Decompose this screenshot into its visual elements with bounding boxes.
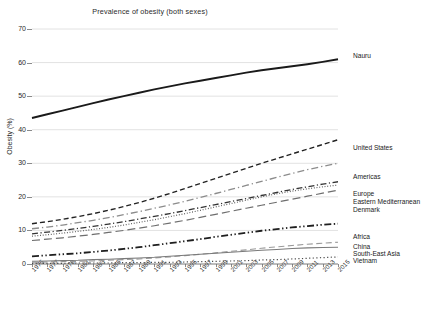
x-axis-tick-mark <box>307 264 308 267</box>
series-label-africa: Africa <box>353 233 370 240</box>
plot-svg <box>32 29 338 264</box>
x-axis-tick-mark <box>262 264 263 267</box>
x-axis-tick-mark <box>323 264 324 267</box>
x-axis-tick-mark <box>338 264 339 267</box>
x-axis-tick-mark <box>78 264 79 267</box>
y-axis-tick-label: 10 <box>4 226 26 233</box>
x-axis-tick-mark <box>93 264 94 267</box>
plot-area <box>32 29 338 264</box>
x-axis-tick-mark <box>109 264 110 267</box>
x-axis-tick-mark <box>32 264 33 267</box>
chart-title: Prevalence of obesity (both sexes) <box>0 7 300 16</box>
series-line-denmark <box>32 190 338 240</box>
series-label-china: China <box>353 243 370 250</box>
y-axis-tick-label: 70 <box>4 25 26 32</box>
y-axis-tick-label: 0 <box>4 260 26 267</box>
y-axis-tick-label: 40 <box>4 126 26 133</box>
x-axis-tick-mark <box>63 264 64 267</box>
series-line-united-states <box>32 140 338 224</box>
y-axis-tick-label: 20 <box>4 193 26 200</box>
series-line-americas <box>32 163 338 228</box>
y-axis-tick-label: 30 <box>4 159 26 166</box>
series-label-europe: Europe <box>353 190 374 197</box>
x-axis-tick-mark <box>124 264 125 267</box>
series-label-nauru: Nauru <box>353 52 371 59</box>
series-line-nauru <box>32 59 338 118</box>
x-axis-tick-mark <box>185 264 186 267</box>
x-axis-tick-mark <box>277 264 278 267</box>
x-axis-tick-mark <box>216 264 217 267</box>
series-label-south-east-asia: South-East Asia <box>353 250 400 257</box>
x-axis-tick-mark <box>246 264 247 267</box>
x-axis-tick-mark <box>139 264 140 267</box>
y-axis-tick-label: 50 <box>4 92 26 99</box>
x-axis-tick-mark <box>200 264 201 267</box>
x-axis-tick-mark <box>292 264 293 267</box>
series-label-vietnam: Vietnam <box>353 257 377 264</box>
x-axis-tick-mark <box>154 264 155 267</box>
series-label-denmark: Denmark <box>353 206 380 213</box>
x-axis-tick-mark <box>47 264 48 267</box>
series-label-united-states: United States <box>353 144 393 151</box>
x-axis-tick-mark <box>231 264 232 267</box>
series-label-americas: Americas <box>353 173 380 180</box>
series-line-europe <box>32 182 338 234</box>
x-axis-tick-mark <box>170 264 171 267</box>
y-axis-tick-label: 60 <box>4 59 26 66</box>
series-label-eastern-mediterranean: Eastern Mediterranean <box>353 198 420 205</box>
chart-container: Prevalence of obesity (both sexes) Obesi… <box>0 0 444 309</box>
